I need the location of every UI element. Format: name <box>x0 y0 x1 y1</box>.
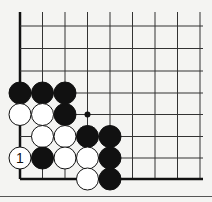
white-stone <box>54 126 76 148</box>
go-board: 1 <box>0 0 212 202</box>
black-stone <box>77 126 99 148</box>
black-stone <box>54 104 76 126</box>
black-stone <box>32 82 54 104</box>
white-stone <box>32 126 54 148</box>
white-stone <box>9 104 31 126</box>
move-number-label: 1 <box>16 150 24 166</box>
black-stone <box>99 126 121 148</box>
black-stone <box>99 147 121 169</box>
white-stone <box>77 147 99 169</box>
white-stone <box>32 104 54 126</box>
white-stone <box>77 168 99 190</box>
point-marker-dot <box>85 112 91 118</box>
bottom-divider <box>0 196 212 197</box>
black-stone <box>99 168 121 190</box>
black-stone <box>54 82 76 104</box>
black-stone <box>9 82 31 104</box>
white-stone <box>54 147 76 169</box>
black-stone <box>32 147 54 169</box>
